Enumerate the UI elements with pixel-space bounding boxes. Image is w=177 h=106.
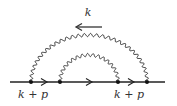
momentum-label-k: k (85, 6, 92, 19)
vertex-dot (116, 80, 120, 84)
feynman-diagram: k k + p k + p (0, 0, 177, 106)
vertex-dot (29, 80, 33, 84)
inner-photon-line (58, 53, 119, 82)
vertex-dot (145, 80, 149, 84)
momentum-label-left: k + p (18, 88, 48, 101)
vertex-dot (58, 80, 62, 84)
momentum-label-right: k + p (114, 88, 144, 101)
right-label-text: k + p (114, 88, 144, 101)
left-label-text: k + p (18, 88, 48, 101)
outer-photon-line (29, 33, 148, 82)
